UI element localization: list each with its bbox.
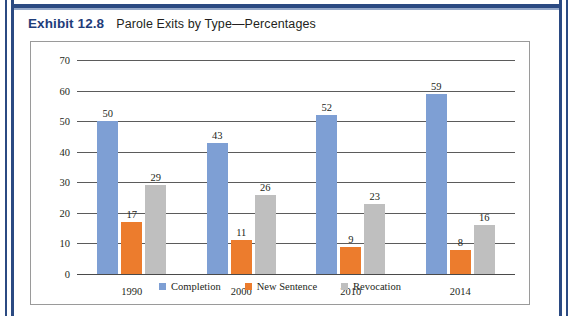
exhibit-caption: Exhibit 12.8Parole Exits by Type—Percent… <box>28 14 316 32</box>
bar-group-bars: 431126 <box>187 60 297 274</box>
bar-value-label: 17 <box>127 209 138 220</box>
y-axis-tick-label: 60 <box>60 85 71 96</box>
frame-left-outer-rule <box>5 0 7 316</box>
bar-groups: 50172919904311262000529232010598162014 <box>77 60 515 274</box>
bar-revocation[interactable] <box>474 225 495 274</box>
bar-revocation[interactable] <box>145 185 166 274</box>
bar-column[interactable]: 17 <box>121 60 142 274</box>
y-axis-tick-label: 40 <box>60 146 71 157</box>
exhibit-number-label: Exhibit 12.8 <box>28 16 104 31</box>
bar-completion[interactable] <box>97 121 118 274</box>
bar-group: 5017291990 <box>77 60 187 274</box>
bar-value-label: 43 <box>212 130 223 141</box>
bar-column[interactable]: 50 <box>97 60 118 274</box>
legend-item-completion[interactable]: Completion <box>159 281 221 292</box>
bar-revocation[interactable] <box>364 204 385 274</box>
y-axis-tick-label: 20 <box>60 207 71 218</box>
bar-new-sentence[interactable] <box>121 222 142 274</box>
y-axis-tick-label: 30 <box>60 177 71 188</box>
bar-column[interactable]: 59 <box>426 60 447 274</box>
bar-column[interactable]: 29 <box>145 60 166 274</box>
bar-column[interactable]: 8 <box>450 60 471 274</box>
bar-value-label: 50 <box>103 108 114 119</box>
exhibit-title-text: Parole Exits by Type—Percentages <box>116 17 316 31</box>
bar-new-sentence[interactable] <box>231 240 252 274</box>
bar-column[interactable]: 16 <box>474 60 495 274</box>
chart-container: 706050403020100 501729199043112620005292… <box>30 41 530 305</box>
bar-column[interactable]: 9 <box>340 60 361 274</box>
bar-completion[interactable] <box>426 94 447 274</box>
legend-swatch-icon <box>245 283 252 290</box>
legend-label: New Sentence <box>257 281 317 292</box>
chart-plot-area: 706050403020100 501729199043112620005292… <box>77 60 515 274</box>
bar-group: 529232010 <box>296 60 406 274</box>
legend-swatch-icon <box>159 283 166 290</box>
frame-left-inner-rule <box>11 0 14 316</box>
bar-value-label: 52 <box>322 102 333 113</box>
bar-group: 598162014 <box>406 60 516 274</box>
legend-label: Completion <box>171 281 221 292</box>
legend-label: Revocation <box>353 281 401 292</box>
bar-new-sentence[interactable] <box>340 247 361 275</box>
legend-swatch-icon <box>341 283 348 290</box>
exhibit-page-frame: Exhibit 12.8Parole Exits by Type—Percent… <box>0 0 573 316</box>
chart-legend: CompletionNew SentenceRevocation <box>31 281 529 292</box>
bar-completion[interactable] <box>316 115 337 274</box>
bar-value-label: 59 <box>431 81 442 92</box>
frame-top-rule-thin <box>14 8 559 10</box>
bar-value-label: 26 <box>260 182 271 193</box>
legend-item-new-sentence[interactable]: New Sentence <box>245 281 317 292</box>
bar-group-bars: 52923 <box>296 60 406 274</box>
bar-column[interactable]: 26 <box>255 60 276 274</box>
bar-value-label: 29 <box>151 172 162 183</box>
bar-group-bars: 59816 <box>406 60 516 274</box>
bar-group-bars: 501729 <box>77 60 187 274</box>
bar-value-label: 11 <box>236 227 246 238</box>
bar-value-label: 9 <box>348 234 353 245</box>
y-axis-tick-label: 50 <box>60 116 71 127</box>
bar-column[interactable]: 11 <box>231 60 252 274</box>
bar-column[interactable]: 43 <box>207 60 228 274</box>
gridline-0 <box>77 274 515 275</box>
bar-column[interactable]: 52 <box>316 60 337 274</box>
bar-completion[interactable] <box>207 143 228 274</box>
y-axis-tick-label: 0 <box>65 269 70 280</box>
bar-value-label: 23 <box>370 191 381 202</box>
y-axis-tick-label: 10 <box>60 238 71 249</box>
frame-right-outer-rule <box>566 0 568 316</box>
bar-group: 4311262000 <box>187 60 297 274</box>
frame-right-inner-rule <box>559 0 562 316</box>
bar-revocation[interactable] <box>255 195 276 274</box>
y-axis-tick-label: 70 <box>60 55 71 66</box>
bar-value-label: 16 <box>479 212 490 223</box>
bar-column[interactable]: 23 <box>364 60 385 274</box>
bar-value-label: 8 <box>458 237 463 248</box>
bar-new-sentence[interactable] <box>450 250 471 274</box>
legend-item-revocation[interactable]: Revocation <box>341 281 401 292</box>
